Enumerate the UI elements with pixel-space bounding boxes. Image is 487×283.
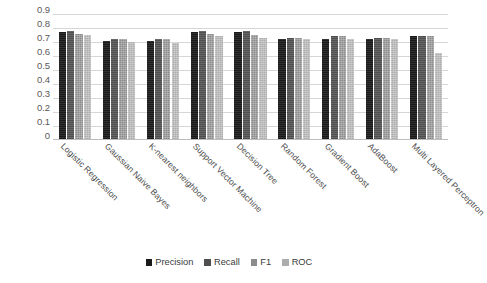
legend-swatch-icon — [282, 259, 289, 266]
legend-swatch-icon — [204, 259, 211, 266]
y-axis-tick-label: 0.7 — [20, 33, 50, 43]
bar — [366, 39, 373, 140]
bar — [427, 36, 434, 140]
bar — [207, 34, 214, 140]
bar — [215, 36, 222, 140]
y-axis-tick-label: 0.6 — [20, 47, 50, 57]
bar-group — [141, 14, 185, 140]
bar-group — [97, 14, 141, 140]
x-axis-label: Gradient Boost — [322, 141, 371, 190]
x-axis-label: Multi Layered Perceptron — [410, 141, 487, 218]
bar — [199, 31, 206, 140]
bar — [435, 53, 442, 140]
y-axis-tick-label: 0.1 — [20, 117, 50, 127]
bar — [418, 36, 425, 140]
bar — [259, 38, 266, 140]
bar — [234, 32, 241, 140]
bar-groups — [53, 14, 448, 140]
bar — [59, 32, 66, 140]
y-axis-tick-label: 0.4 — [20, 75, 50, 85]
bar — [295, 38, 302, 140]
bar — [103, 41, 110, 140]
bar-group — [229, 14, 273, 140]
bar — [84, 35, 91, 140]
bar — [374, 38, 381, 140]
bar — [128, 42, 135, 140]
bar — [251, 35, 258, 140]
bar — [163, 39, 170, 140]
bar — [111, 39, 118, 140]
bar-group — [404, 14, 448, 140]
bar — [278, 39, 285, 140]
bar — [172, 43, 179, 140]
bar-group — [185, 14, 229, 140]
chart-legend: PrecisionRecallF1ROC — [0, 258, 458, 267]
y-axis-tick-label: 0.2 — [20, 103, 50, 113]
bar — [155, 39, 162, 140]
bar — [75, 34, 82, 140]
bar — [331, 36, 338, 140]
bar-group — [360, 14, 404, 140]
bar — [347, 39, 354, 140]
bar — [191, 32, 198, 140]
bar — [67, 31, 74, 140]
bar — [287, 38, 294, 140]
bar — [339, 36, 346, 140]
bar — [410, 36, 417, 140]
bar-group — [53, 14, 97, 140]
bar — [147, 41, 154, 140]
bar — [119, 39, 126, 140]
x-axis-label: Random Forest — [279, 141, 329, 191]
legend-item[interactable]: F1 — [251, 258, 271, 267]
bar — [243, 31, 250, 140]
bar-group — [272, 14, 316, 140]
x-axis-label: Decision Tree — [235, 141, 280, 186]
x-axis-line — [53, 139, 448, 140]
bar — [383, 38, 390, 140]
legend-item[interactable]: ROC — [282, 258, 312, 267]
legend-swatch-icon — [251, 259, 258, 266]
y-axis-tick-label: 0.8 — [20, 19, 50, 29]
y-axis-tick-label: 0.3 — [20, 89, 50, 99]
y-axis-tick-label: 0 — [20, 131, 50, 141]
legend-item[interactable]: Precision — [146, 258, 194, 267]
legend-label: F1 — [260, 258, 271, 267]
bar — [322, 39, 329, 140]
legend-item[interactable]: Recall — [204, 258, 239, 267]
legend-label: Precision — [155, 258, 193, 267]
legend-label: ROC — [292, 258, 313, 267]
bar — [303, 39, 310, 140]
bar — [391, 39, 398, 140]
plot-area — [53, 14, 448, 140]
x-axis-label: AdaBoost — [366, 141, 400, 175]
x-axis-labels: Logistic RegressionGaussian Naive BayesK… — [53, 141, 448, 251]
y-axis-tick-label: 0.5 — [20, 61, 50, 71]
bar-group — [316, 14, 360, 140]
legend-label: Recall — [214, 258, 240, 267]
y-axis-tick-label: 0.9 — [20, 5, 50, 15]
y-axis: 0.90.80.70.60.50.40.30.20.10 — [20, 10, 50, 140]
legend-swatch-icon — [146, 259, 153, 266]
